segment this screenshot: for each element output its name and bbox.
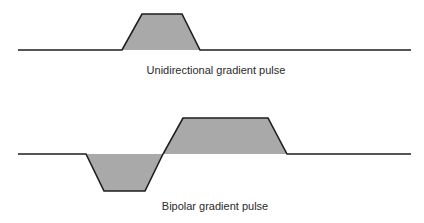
bipolar-positive-lobe (163, 118, 287, 154)
bipolar-pulse-diagram (18, 118, 411, 191)
gradient-pulse-diagram (0, 0, 424, 223)
unidirectional-positive-lobe (122, 14, 200, 50)
unidirectional-pulse-caption: Unidirectional gradient pulse (147, 65, 286, 76)
bipolar-pulse-caption: Bipolar gradient pulse (162, 201, 268, 212)
bipolar-negative-lobe (86, 154, 163, 191)
unidirectional-pulse-diagram (18, 14, 411, 50)
unidirectional-pulse-outline (18, 14, 411, 50)
